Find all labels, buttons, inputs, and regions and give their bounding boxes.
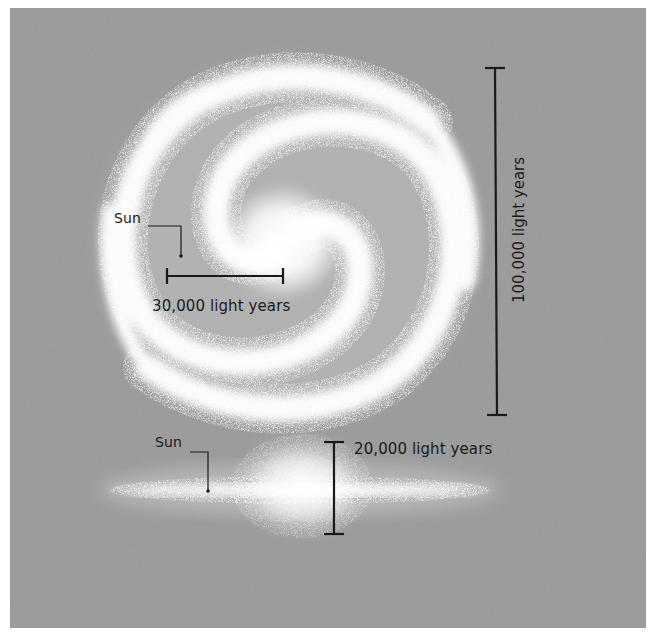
sun-marker-edge-on bbox=[206, 489, 210, 493]
sun-label-face-on: Sun bbox=[114, 210, 141, 226]
spiral-galaxy-face-on bbox=[108, 70, 470, 414]
scale-label-20000: 20,000 light years bbox=[354, 440, 492, 458]
diagram-panel: Sun 30,000 light years 100,000 light yea… bbox=[10, 8, 646, 628]
sun-label-edge-on: Sun bbox=[155, 434, 182, 450]
scale-label-100000: 100,000 light years bbox=[510, 157, 528, 303]
scale-label-30000: 30,000 light years bbox=[152, 297, 290, 315]
galaxy-illustration bbox=[10, 8, 646, 628]
sun-marker-face-on bbox=[179, 254, 183, 258]
